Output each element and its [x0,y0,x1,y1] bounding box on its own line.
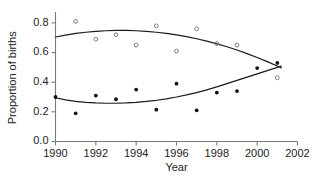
data-point [54,95,58,99]
x-tick-label: 1996 [164,147,188,159]
upper-fit [56,30,282,68]
data-point [255,66,259,70]
x-tick-label: 1990 [43,147,67,159]
x-tick-label: 2000 [245,147,269,159]
y-tick-label: 0.2 [33,105,48,117]
chart-container: 0.00.20.40.60.8 Proportion of births 199… [0,0,320,184]
data-point [134,43,138,47]
x-axis-title: Year [165,161,188,173]
data-point [235,43,239,47]
lower-fit [56,66,282,103]
data-point [275,61,279,65]
data-point [154,24,158,28]
x-tick-label: 1998 [205,147,229,159]
x-tick-label: 1992 [84,147,108,159]
x-tick-group: 1990199219941996199820002002 [43,142,309,159]
fit-curves-group [56,30,282,103]
data-point [215,91,219,95]
data-point [195,108,199,112]
data-point [195,27,199,31]
proportion-of-births-scatter-plot: 0.00.20.40.60.8 Proportion of births 199… [0,0,320,184]
data-point [175,49,179,53]
x-tick-label: 1994 [124,147,148,159]
y-axis: 0.00.20.40.60.8 Proportion of births [6,12,56,146]
data-point [114,33,118,37]
data-point [94,37,98,41]
y-axis-title: Proportion of births [6,31,18,124]
series-upper-proportion [74,20,279,80]
y-tick-label: 0.6 [33,45,48,57]
y-tick-label: 0.8 [33,16,48,28]
y-tick-label: 0.4 [33,75,48,87]
data-point [235,89,239,93]
x-tick-label: 2002 [285,147,309,159]
y-tick-group: 0.00.20.40.60.8 [33,16,55,147]
x-axis: 1990199219941996199820002002 Year [43,142,309,173]
data-point [275,76,279,80]
y-tick-label: 0.0 [33,134,48,146]
data-point [154,108,158,112]
data-point [175,82,179,86]
data-point [134,88,138,92]
data-point [94,94,98,98]
data-point [74,111,78,115]
series-lower-proportion [54,61,280,115]
data-point [74,20,78,24]
data-point [114,97,118,101]
